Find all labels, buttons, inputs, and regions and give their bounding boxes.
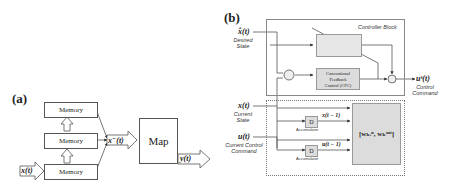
input-x-label: x(t) — [21, 166, 33, 175]
desired-state-caption: Desired State — [228, 37, 258, 49]
cfc-line3: Control (CFC) — [317, 83, 359, 89]
accumulator-label-x: Accumulator — [296, 127, 318, 132]
current-state-caption: Current State — [228, 111, 258, 123]
cfc-block: Conventional Feedback Control (CFC) — [316, 68, 360, 90]
neural-network-block — [316, 34, 362, 57]
x-delayed-label: x(t − 1) — [322, 112, 340, 118]
memory-block-middle: Memory — [44, 133, 98, 149]
output-y-label: y(t) — [180, 154, 191, 163]
current-control-caption: Current Control Command — [222, 142, 266, 154]
control-output-symbol: uˢ(t) — [416, 74, 430, 83]
desired-state-symbol: x̂(t) — [238, 27, 250, 36]
map-block: Map — [139, 118, 178, 164]
desired-caption-line2: State — [228, 43, 258, 49]
memory-block-bottom: Memory — [44, 164, 98, 180]
control-output-caption: Control Command — [408, 84, 442, 96]
weights-block: [wₖᵢⁿ, wₖᵒᵘᵗ] — [352, 103, 401, 165]
u-delayed-label: u(t − 1) — [322, 141, 341, 147]
current-control-caption-line2: Command — [222, 148, 266, 154]
current-control-symbol: u(t) — [238, 132, 250, 141]
panel-a-label: (a) — [12, 91, 27, 107]
accumulator-label-u: Accumulator — [296, 156, 318, 161]
panel-b-label: (b) — [224, 10, 240, 26]
current-state-symbol: x(t) — [238, 101, 250, 110]
controller-block-title: Controller Block — [358, 24, 397, 30]
control-caption-line2: Command — [408, 90, 442, 96]
concat-x-label: x⁻(t) — [108, 135, 124, 145]
memory-block-top: Memory — [44, 102, 98, 118]
current-state-caption-line2: State — [228, 117, 258, 123]
